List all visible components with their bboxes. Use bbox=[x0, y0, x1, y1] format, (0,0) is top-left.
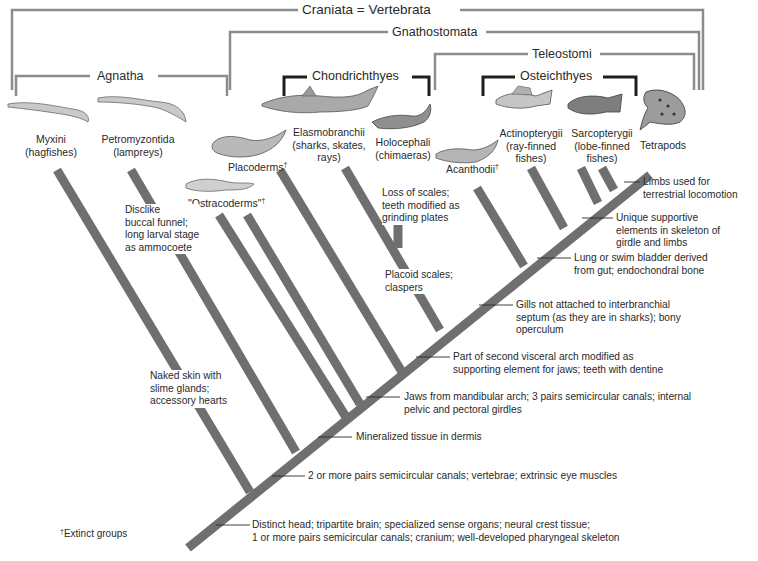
character-mineralized-tissue: Mineralized tissue in dermis bbox=[356, 431, 482, 444]
taxon-holocephali: Holocephali (chimaeras) bbox=[372, 136, 434, 161]
branch-ostracoderm-b bbox=[247, 215, 360, 404]
branch-sarcopterygii-a bbox=[581, 168, 598, 203]
character-visceral-arch: Part of second visceral arch modified as… bbox=[453, 351, 663, 376]
group-label-teleostomi: Teleostomi bbox=[528, 47, 596, 61]
acanthodian-illustration bbox=[436, 140, 498, 163]
coelacanth-illustration bbox=[568, 94, 622, 114]
taxon-actinopterygii: Actinopterygii (ray-finned fishes) bbox=[493, 127, 569, 165]
character-vertebrae: 2 or more pairs semicircular canals; ver… bbox=[308, 470, 617, 483]
gnathostomata-bracket bbox=[230, 32, 699, 90]
taxon-sarcopterygii: Sarcopterygii (lobe-finned fishes) bbox=[566, 127, 638, 165]
taxon-myxini: Myxini (hagfishes) bbox=[20, 133, 82, 158]
character-jaws: Jaws from mandibular arch; 3 pairs semic… bbox=[404, 391, 691, 416]
taxon-tetrapods: Tetrapods bbox=[640, 139, 686, 152]
group-label-osteichthyes: Osteichthyes bbox=[516, 69, 596, 83]
ostracoderm-illustration bbox=[186, 179, 254, 191]
character-gills: Gills not attached to interbranchial sep… bbox=[516, 299, 681, 337]
character-lung: Lung or swim bladder derived from gut; e… bbox=[574, 252, 708, 277]
taxon-placoderms: Placoderms† bbox=[228, 161, 287, 174]
group-label-agnatha: Agnatha bbox=[93, 69, 148, 83]
branch-sarcopterygii-b bbox=[602, 168, 614, 190]
taxon-elasmobranchii: Elasmobranchii (sharks, skates, rays) bbox=[289, 126, 369, 164]
chimaera-illustration bbox=[372, 104, 431, 129]
taxon-acanthodii: Acanthodii† bbox=[446, 163, 499, 176]
taxon-ostracoderms: "Ostracoderms"† bbox=[188, 197, 265, 210]
branch-actinopterygii bbox=[531, 168, 564, 228]
footnote-dagger: † bbox=[60, 528, 64, 535]
group-label-gnathostomata: Gnathostomata bbox=[388, 25, 481, 39]
taxon-petromyzontida: Petromyzontida (lampreys) bbox=[96, 133, 180, 158]
frog-illustration bbox=[640, 90, 685, 130]
extinct-dagger: † bbox=[261, 197, 265, 204]
shark-illustration bbox=[262, 86, 378, 113]
placoderm-illustration bbox=[212, 130, 286, 157]
character-placoid-scales: Placoid scales; claspers bbox=[385, 269, 453, 294]
branch-acanthodii bbox=[477, 188, 524, 266]
perch-illustration bbox=[496, 86, 552, 108]
character-hagfish: Naked skin with slime glands; accessory … bbox=[150, 370, 227, 408]
character-limbs: Limbs used for terrestrial locomotion bbox=[643, 176, 738, 201]
group-label-craniata: Craniata = Vertebrata bbox=[298, 3, 435, 17]
footnote-extinct-groups: †Extinct groups bbox=[60, 528, 127, 541]
character-supportive-elements: Unique supportive elements in skeleton o… bbox=[616, 212, 720, 250]
group-label-chondrichthyes: Chondrichthyes bbox=[308, 69, 403, 83]
character-holocephali: Loss of scales; teeth modified as grindi… bbox=[382, 187, 460, 225]
extinct-dagger: † bbox=[283, 161, 287, 168]
character-lamprey: Disclike buccal funnel; long larval stag… bbox=[125, 204, 199, 254]
hagfish-illustration bbox=[8, 103, 89, 122]
character-distinct-head: Distinct head; tripartite brain; special… bbox=[252, 519, 620, 544]
lamprey-illustration bbox=[98, 97, 186, 122]
